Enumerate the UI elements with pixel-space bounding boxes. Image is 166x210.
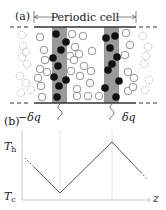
faded-particle (17, 89, 25, 97)
faded-particle (23, 60, 31, 68)
open-particle (87, 67, 95, 75)
faded-particle (145, 76, 153, 84)
open-particle (95, 92, 103, 100)
open-particle (122, 29, 130, 37)
filled-particle (62, 38, 70, 46)
filled-particle (49, 54, 57, 62)
open-particle (124, 68, 132, 76)
vertical-guides (60, 130, 112, 200)
wavy-heat-icon (58, 104, 62, 120)
open-particle (43, 68, 51, 76)
open-particle (37, 82, 45, 90)
open-particle (34, 74, 42, 82)
filled-particle (111, 32, 119, 40)
heat-out-label: −δq (18, 111, 41, 124)
profile-dotted-start (25, 158, 34, 167)
filled-particle (55, 82, 63, 90)
filled-particle (52, 30, 60, 38)
panel-a: (a) Periodic cell −δq δq (10, 10, 160, 124)
open-particle (73, 85, 81, 93)
y-label-cold: Tc (4, 190, 16, 204)
profile-solid (34, 142, 141, 193)
faded-particle (22, 48, 30, 56)
filled-particle (112, 93, 120, 101)
faded-particle (18, 53, 26, 61)
periodic-cell-label: Periodic cell (51, 11, 120, 24)
filled-particle (62, 76, 70, 84)
open-particle (40, 46, 48, 54)
heat-flow-squiggles (58, 104, 114, 120)
filled-particle (102, 34, 110, 42)
open-particle (126, 41, 134, 49)
faded-particle (142, 52, 150, 60)
open-particles (34, 29, 138, 101)
open-particle (36, 65, 44, 73)
filled-particle (106, 44, 114, 52)
y-label-hot: Th (4, 140, 17, 154)
open-particle (70, 56, 78, 64)
temperature-profile-line (25, 142, 148, 193)
open-particle (121, 51, 129, 59)
wavy-heat-icon (110, 104, 114, 120)
periodic-cell-figure: (a) Periodic cell −δq δq (b) Th Tc z (0, 0, 166, 210)
filled-particle (53, 93, 61, 101)
faded-particle (16, 72, 24, 80)
open-particle (36, 33, 44, 41)
filled-particle (54, 62, 62, 70)
open-particle (130, 74, 138, 82)
open-particle (79, 32, 87, 40)
plot-axes (22, 130, 150, 202)
faded-particle (140, 60, 148, 68)
faded-particle (18, 31, 26, 39)
open-particle (80, 62, 88, 70)
faded-particle (27, 86, 35, 94)
panel-b-label: (b) (4, 115, 20, 128)
filled-particle (115, 77, 123, 85)
filled-particle (57, 46, 65, 54)
open-particle (68, 30, 76, 38)
open-particle (71, 43, 79, 51)
panel-b-temperature-plot: (b) Th Tc z (4, 115, 159, 205)
faded-particle (139, 32, 147, 40)
open-particle (73, 92, 81, 100)
filled-particle (101, 84, 109, 92)
filled-particle (104, 66, 112, 74)
open-particle (76, 72, 84, 80)
faded-particle (141, 86, 149, 94)
open-particle (41, 56, 49, 64)
open-particle (67, 67, 75, 75)
faded-particle (19, 42, 27, 50)
x-axis-label-z: z (152, 192, 159, 205)
panel-a-label: (a) (15, 10, 30, 23)
faded-particle (22, 79, 30, 87)
open-particle (88, 47, 96, 55)
open-particle (86, 79, 94, 87)
profile-dotted-end (141, 172, 148, 180)
open-particle (38, 93, 46, 101)
filled-particle (50, 73, 58, 81)
heat-in-label: δq (122, 111, 136, 124)
open-particle (129, 83, 137, 91)
filled-particle (113, 53, 121, 61)
faded-particle (144, 43, 152, 51)
open-particle (84, 92, 92, 100)
